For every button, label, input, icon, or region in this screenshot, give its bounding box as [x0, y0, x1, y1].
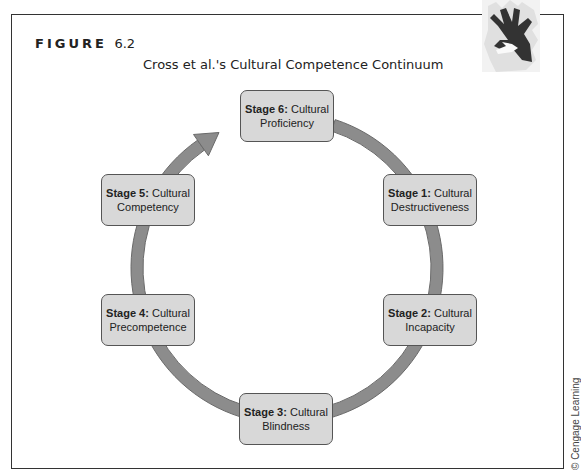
stage-1-line1: Cultural [434, 187, 472, 199]
stage-3-line1: Cultural [290, 406, 328, 418]
stage-1-prefix: Stage 1: [388, 187, 431, 199]
stage-2-line2: Incapacity [405, 321, 455, 333]
cycle-arc-band [131, 120, 443, 424]
stage-4-prefix: Stage 4: [106, 307, 149, 319]
stage-5-line1: Cultural [152, 187, 190, 199]
stage-6-box: Stage 6: CulturalProficiency [240, 90, 334, 142]
stage-5-line2: Competency [117, 201, 179, 213]
stage-4-box: Stage 4: CulturalPrecompetence [101, 294, 195, 346]
stage-4-line2: Precompetence [109, 321, 186, 333]
stage-6-line2: Proficiency [260, 117, 314, 129]
stage-1-line2: Destructiveness [391, 201, 469, 213]
copyright-credit: © Cengage Learning [570, 378, 581, 470]
stage-5-prefix: Stage 5: [106, 187, 149, 199]
cycle-arc [131, 120, 443, 424]
stage-2-box: Stage 2: CulturalIncapacity [383, 294, 477, 346]
stage-3-line2: Blindness [262, 420, 310, 432]
stage-6-line1: Cultural [291, 103, 329, 115]
stage-6-prefix: Stage 6: [245, 103, 288, 115]
stage-3-prefix: Stage 3: [244, 406, 287, 418]
stage-2-prefix: Stage 2: [388, 307, 431, 319]
stage-2-line1: Cultural [434, 307, 472, 319]
stage-4-line1: Cultural [152, 307, 190, 319]
stage-5-box: Stage 5: CulturalCompetency [101, 174, 195, 226]
stage-3-box: Stage 3: CulturalBlindness [239, 393, 333, 445]
stage-1-box: Stage 1: CulturalDestructiveness [383, 174, 477, 226]
